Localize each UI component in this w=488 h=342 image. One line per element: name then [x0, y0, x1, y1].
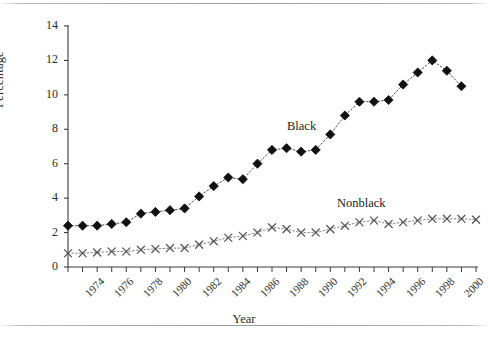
data-point-nonblack: [239, 232, 246, 239]
plot-area: [0, 0, 488, 342]
data-point-nonblack: [327, 226, 334, 233]
data-point-nonblack: [137, 246, 144, 253]
data-point-black: [63, 221, 72, 230]
data-point-nonblack: [356, 219, 363, 226]
chart-figure: Percentage Year 02468101214 197419761978…: [0, 0, 488, 342]
diamond-marker-icon: [180, 204, 189, 213]
diamond-marker-icon: [209, 181, 218, 190]
diamond-marker-icon: [238, 175, 247, 184]
diamond-marker-icon: [297, 147, 306, 156]
diamond-marker-icon: [195, 192, 204, 201]
diamond-marker-icon: [151, 207, 160, 216]
data-point-black: [107, 219, 116, 228]
data-point-black: [78, 221, 87, 230]
data-point-black: [369, 97, 378, 106]
diamond-marker-icon: [369, 97, 378, 106]
data-point-nonblack: [196, 241, 203, 248]
diamond-marker-icon: [78, 221, 87, 230]
data-point-black: [297, 147, 306, 156]
data-point-nonblack: [210, 238, 217, 245]
data-point-black: [136, 209, 145, 218]
diamond-marker-icon: [282, 144, 291, 153]
data-point-black: [224, 173, 233, 182]
data-point-nonblack: [254, 229, 261, 236]
data-point-black: [195, 192, 204, 201]
data-point-black: [180, 204, 189, 213]
data-point-black: [209, 181, 218, 190]
data-point-black: [165, 206, 174, 215]
data-point-nonblack: [283, 226, 290, 233]
data-point-black: [238, 175, 247, 184]
diamond-marker-icon: [224, 173, 233, 182]
diamond-marker-icon: [107, 219, 116, 228]
diamond-marker-icon: [63, 221, 72, 230]
data-point-black: [122, 218, 131, 227]
diamond-marker-icon: [136, 209, 145, 218]
data-point-black: [151, 207, 160, 216]
data-point-nonblack: [341, 222, 348, 229]
diamond-marker-icon: [122, 218, 131, 227]
data-point-black: [282, 144, 291, 153]
diamond-marker-icon: [165, 206, 174, 215]
data-point-black: [93, 221, 102, 230]
diamond-marker-icon: [93, 221, 102, 230]
